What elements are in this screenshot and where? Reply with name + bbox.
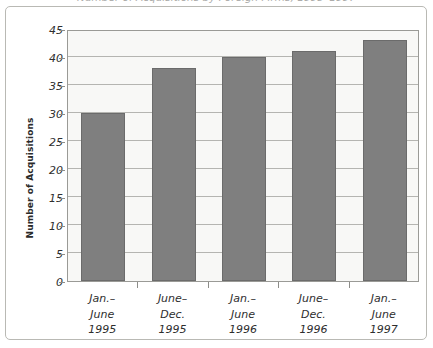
y-axis-tick-mark — [59, 198, 65, 199]
x-axis-tick-label-line: June — [349, 307, 419, 323]
x-axis-tick-marks — [67, 282, 419, 289]
x-axis-tick-label: Jan.–June1997 — [349, 291, 419, 345]
x-axis-tick-mark — [208, 282, 209, 288]
plot-area — [67, 30, 419, 282]
x-axis-tick-label-line: Jan.– — [349, 291, 419, 307]
bar — [292, 51, 336, 281]
bar — [81, 113, 125, 281]
x-axis-tick-label: June–Dec.1996 — [278, 291, 348, 345]
x-axis-tick-mark — [137, 282, 138, 288]
y-axis-tick-mark — [59, 254, 65, 255]
y-axis-tick-mark — [59, 226, 65, 227]
x-axis-tick-label-line: June– — [137, 291, 207, 307]
chart-title-cropped: Number of Acquisitions by Foreign Firms,… — [0, 0, 433, 5]
x-axis-tick-label-line: Dec. — [137, 307, 207, 323]
y-axis-tick-mark — [59, 114, 65, 115]
x-axis-tick-label-line: Jan.– — [67, 291, 137, 307]
bar — [222, 57, 266, 281]
x-axis-tick-labels: Jan.–June1995June–Dec.1995Jan.–June1996J… — [67, 291, 419, 345]
x-axis-tick-label-line: 1996 — [278, 322, 348, 338]
y-axis-tick-marks — [6, 30, 67, 282]
x-axis-tick-label: Jan.–June1995 — [67, 291, 137, 345]
bar — [363, 40, 407, 281]
y-axis-tick-mark — [59, 282, 65, 283]
x-axis-tick-label-line: Jan.– — [208, 291, 278, 307]
x-axis-tick-label-line: 1995 — [137, 322, 207, 338]
x-axis-tick-label-line: Dec. — [278, 307, 348, 323]
x-axis-tick-label-line: 1995 — [67, 322, 137, 338]
x-axis-tick-label-line: 1997 — [349, 322, 419, 338]
x-axis-tick-label: June–Dec.1995 — [137, 291, 207, 345]
y-axis-tick-mark — [59, 142, 65, 143]
x-axis-tick-label-line: June — [208, 307, 278, 323]
y-axis-tick-mark — [59, 58, 65, 59]
x-axis-tick-mark — [349, 282, 350, 288]
x-axis-tick-label-line: June– — [278, 291, 348, 307]
chart-figure-frame: Number of Acquisitions 05101520253035404… — [5, 6, 427, 340]
y-axis-tick-mark — [59, 170, 65, 171]
y-axis-tick-mark — [59, 30, 65, 31]
x-axis-tick-label-line: June — [67, 307, 137, 323]
y-axis-tick-mark — [59, 86, 65, 87]
x-axis-tick-label: Jan.–June1996 — [208, 291, 278, 345]
x-axis-tick-label-line: 1996 — [208, 322, 278, 338]
bar-series — [68, 31, 418, 281]
chart-title-text: Number of Acquisitions by Foreign Firms,… — [77, 0, 356, 3]
x-axis-tick-mark — [278, 282, 279, 288]
bar — [152, 68, 196, 281]
